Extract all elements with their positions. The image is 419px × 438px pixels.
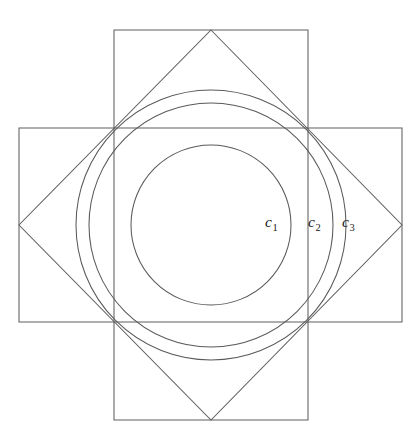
- label-c2-base: c: [308, 213, 315, 230]
- label-c1: c1: [265, 214, 277, 230]
- circle-c2: [89, 103, 333, 347]
- label-c2: c2: [308, 214, 320, 230]
- label-c2-subscript: 2: [315, 222, 320, 233]
- geometry-diagram: [0, 0, 419, 438]
- label-c3-subscript: 3: [349, 222, 354, 233]
- label-c1-subscript: 1: [272, 222, 277, 233]
- label-c3: c3: [342, 214, 354, 230]
- circle-c3: [76, 90, 346, 360]
- label-c3-base: c: [342, 213, 349, 230]
- figure-container: c1 c2 c3: [0, 0, 419, 438]
- vertical-rectangle: [114, 30, 308, 420]
- label-c1-base: c: [265, 213, 272, 230]
